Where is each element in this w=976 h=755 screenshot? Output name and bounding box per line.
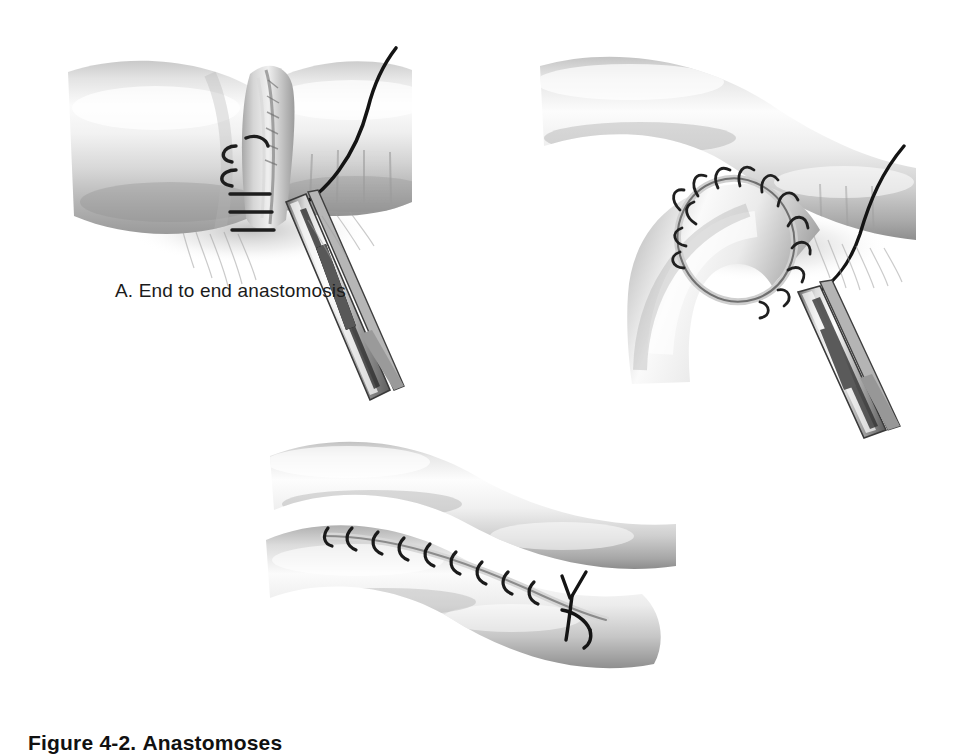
vessel-right-limb <box>272 61 420 216</box>
illustration-end-to-end-anastomosis <box>60 34 420 414</box>
panel-b-end-to-side: B. End to side anastomosis <box>520 34 920 454</box>
figure-caption-number: Figure 4-2. <box>28 731 136 754</box>
figure-caption: Figure 4-2.Anastomoses <box>28 731 282 755</box>
figure-caption-title: Anastomoses <box>142 731 282 754</box>
panel-c-side-to-side: C. Side to side anastomosis <box>262 432 682 697</box>
panel-a-end-to-end: A. End to end anastomosis <box>60 34 420 414</box>
panel-a-label: A. End to end anastomosis <box>115 280 346 302</box>
forceps-instrument <box>798 280 900 438</box>
illustration-side-to-side-anastomosis <box>262 432 682 697</box>
illustration-end-to-side-anastomosis <box>520 34 920 454</box>
figure-sheet: A. End to end anastomosis <box>0 0 976 755</box>
